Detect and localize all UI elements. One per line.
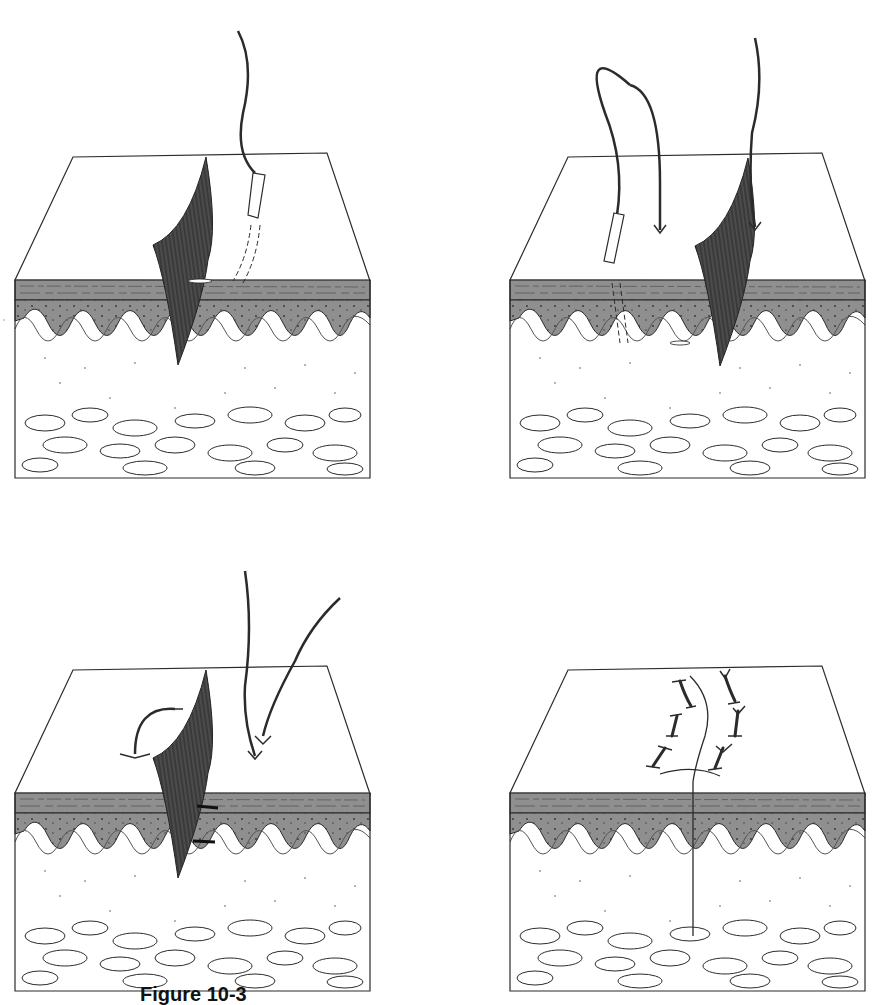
panel-3 [15,571,370,991]
panel-2 [510,38,865,478]
speck [3,319,5,321]
figure-caption: Figure 10-3 [140,984,261,1004]
panel-1 [15,31,370,478]
panel-4 [510,666,865,991]
figure-caption-label: Figure 10-3 [140,983,247,1005]
